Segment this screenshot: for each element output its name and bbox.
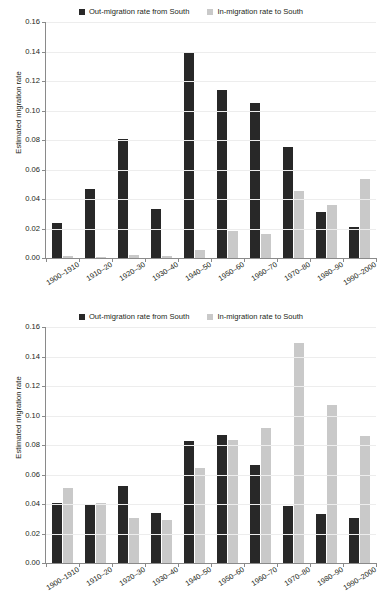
gridline [46,357,376,358]
bar [184,52,195,259]
x-axis-labels-top: 1900–19101910–201920–301930–401940–50195… [45,260,375,305]
x-axis-tick-label: 1980–90 [315,260,344,283]
bar [151,209,162,258]
bar [316,514,327,563]
y-axis-tick-label: 0.16 [25,323,40,331]
legend-swatch-icon-out-migration-bottom [79,314,85,320]
x-axis-tick-label: 1980–90 [315,565,344,588]
gridline [46,199,376,200]
bar [129,518,140,563]
bar [294,343,305,563]
gridline [46,111,376,112]
y-axis-tick [42,504,46,505]
x-axis-tick-label: 1990–2000 [341,260,377,287]
bar [228,440,239,563]
bar [261,428,272,563]
legend-top: Out-migration rate from South In-migrati… [0,4,382,20]
x-axis-tick [376,258,377,262]
x-axis-tick-label: 1920–30 [117,260,146,283]
y-axis-tick [42,22,46,23]
y-axis-tick-label: 0.14 [25,353,40,361]
bar [195,468,206,563]
y-axis-tick-label: 0.16 [25,18,40,26]
y-axis-tick [42,534,46,535]
bar [327,405,338,563]
x-axis-tick-label: 1960–70 [249,565,278,588]
gridline [46,445,376,446]
chart-panel-top: Out-migration rate from South In-migrati… [0,0,382,305]
gridline [46,416,376,417]
bar [63,256,74,258]
bar [151,513,162,563]
y-axis-tick-label: 0.08 [25,136,40,144]
y-axis-tick [42,386,46,387]
chart-panel-bottom: Out-migration rate from South In-migrati… [0,305,382,610]
y-axis-tick-label: 0.10 [25,412,40,420]
y-axis-tick [42,111,46,112]
y-axis-tick-label: 0.10 [25,107,40,115]
bar [217,435,228,563]
x-axis-tick-label: 1950–60 [216,260,245,283]
bar [96,257,107,258]
legend-entry-in-migration-bottom: In-migration rate to South [207,313,303,321]
legend-entry-in-migration: In-migration rate to South [207,8,303,16]
y-axis-tick [42,52,46,53]
bar [250,103,261,258]
bar [327,205,338,258]
bar [162,256,173,258]
x-axis-tick-label: 1900–1910 [44,565,80,592]
legend-swatch-icon-out-migration [79,9,85,15]
legend-entry-out-migration: Out-migration rate from South [79,8,189,16]
x-axis-tick [376,563,377,567]
y-axis-title-top: Estimated migration rate [14,43,23,183]
x-axis-tick-label: 1910–20 [84,260,113,283]
bar [250,465,261,563]
legend-swatch-icon-in-migration [207,9,213,15]
y-axis-tick [42,327,46,328]
y-axis-tick [42,170,46,171]
y-axis-tick-label: 0.12 [25,382,40,390]
bar [360,179,371,258]
gridline [46,81,376,82]
y-axis-tick-label: 0.02 [25,530,40,538]
y-axis-tick [42,416,46,417]
x-axis-tick-label: 1910–20 [84,565,113,588]
gridline [46,327,376,328]
gridline [46,140,376,141]
bar [118,486,129,563]
bar [228,231,239,258]
x-axis-tick-label: 1950–60 [216,565,245,588]
y-axis-tick-label: 0.08 [25,441,40,449]
bar [360,436,371,563]
bar [184,441,195,563]
y-axis-tick [42,229,46,230]
legend-swatch-icon-in-migration-bottom [207,314,213,320]
x-axis-tick-label: 1940–50 [183,565,212,588]
legend-label-in-migration-bottom: In-migration rate to South [217,313,303,321]
gridline [46,534,376,535]
gridline [46,22,376,23]
bar [129,255,140,258]
legend-label-out-migration: Out-migration rate from South [89,8,189,16]
y-axis-tick-label: 0.00 [25,559,40,567]
bar [283,506,294,563]
gridline [46,52,376,53]
legend-label-in-migration: In-migration rate to South [217,8,303,16]
y-axis-tick-label: 0.00 [25,254,40,262]
bar [283,147,294,258]
gridline [46,504,376,505]
gridline [46,229,376,230]
y-axis-tick [42,357,46,358]
plot-area-bottom: 0.000.020.040.060.080.100.120.140.16 [45,327,376,564]
legend-label-out-migration-bottom: Out-migration rate from South [89,313,189,321]
y-axis-tick-label: 0.04 [25,195,40,203]
x-axis-tick-label: 1960–70 [249,260,278,283]
y-axis-tick-label: 0.04 [25,500,40,508]
gridline [46,170,376,171]
y-axis-tick-label: 0.06 [25,166,40,174]
y-axis-tick-label: 0.06 [25,471,40,479]
x-axis-labels-bottom: 1900–19101910–201920–301930–401940–50195… [45,565,375,610]
y-axis-tick [42,81,46,82]
bar [162,520,173,563]
bar [316,212,327,258]
